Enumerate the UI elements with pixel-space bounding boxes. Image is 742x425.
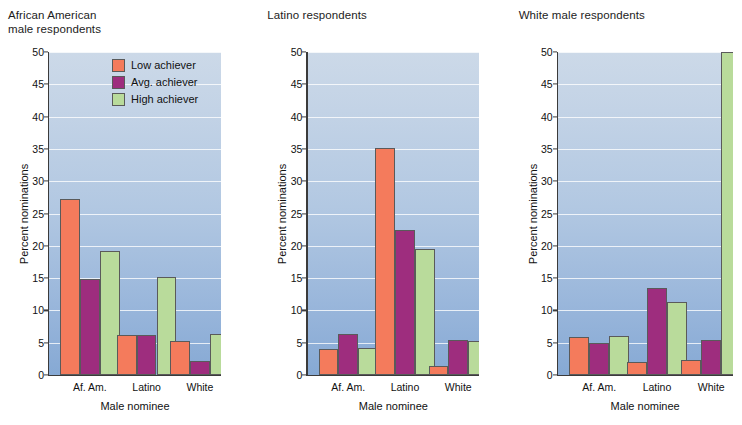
gridline [558,310,733,311]
chart-figure: African American male respondentsPercent… [0,0,742,425]
y-tick-label: 15 [260,273,302,284]
y-tick-label: 20 [2,241,44,252]
x-axis-line [306,375,479,376]
chart-panel-2: Latino respondentsPercent nominations051… [247,0,494,425]
y-tick-label: 5 [511,337,553,348]
legend-label: High achiever [131,93,198,105]
x-tick-label: White [187,381,214,393]
chart-panel-1: African American male respondentsPercent… [0,0,247,425]
y-tick-label: 25 [2,208,44,219]
bar [429,366,449,375]
x-tick-label: White [445,381,472,393]
y-tick-label: 20 [260,241,302,252]
legend-swatch-icon [112,59,125,72]
bar [210,334,221,375]
y-tick-label: 35 [260,144,302,155]
y-tick-label: 30 [2,176,44,187]
bar [415,249,435,375]
bar [647,288,667,375]
y-tick-label: 50 [260,47,302,58]
panel-title: Latino respondents [267,8,367,22]
legend-item: Low achiever [112,57,198,73]
y-tick-label: 30 [511,176,553,187]
y-tick-label: 35 [511,144,553,155]
bar [721,52,732,375]
y-tick-label: 25 [511,208,553,219]
y-tick-label: 0 [511,370,553,381]
bar [627,362,647,375]
gridline [558,278,733,279]
bar [589,343,609,375]
gridline [307,117,479,118]
bar [60,199,80,375]
plot-area [307,52,479,375]
y-axis-ticks: 05101520253035404550 [258,52,302,375]
y-tick-label: 40 [2,111,44,122]
x-tick-label: Af. Am. [582,381,616,393]
bar [448,340,468,375]
x-tick-label: Af. Am. [331,381,365,393]
y-tick-label: 30 [260,176,302,187]
y-axis-line [557,52,558,376]
bar [170,341,190,375]
bar [681,360,701,375]
y-axis-ticks: 05101520253035404550 [509,52,553,375]
y-tick-label: 20 [511,241,553,252]
y-tick-label: 15 [2,273,44,284]
panel-title: African American male respondents [8,8,101,36]
plot-area [558,52,733,375]
gridline [558,52,733,53]
bar [190,361,210,375]
gridline [558,84,733,85]
gridline [49,52,221,53]
gridline [558,181,733,182]
bar [468,341,479,375]
gridline [558,246,733,247]
gridline [49,181,221,182]
y-tick-label: 10 [2,305,44,316]
panel-title: White male respondents [519,8,645,22]
legend-label: Low achiever [131,59,196,71]
y-tick-label: 5 [260,337,302,348]
gridline [49,149,221,150]
legend-label: Avg. achiever [131,76,197,88]
x-axis-title: Male nominee [100,400,169,412]
y-tick-label: 45 [260,79,302,90]
y-tick-label: 10 [260,305,302,316]
bar [569,337,589,375]
gridline [307,84,479,85]
y-tick-label: 35 [2,144,44,155]
legend-swatch-icon [112,93,125,106]
chart-panel-3: White male respondentsPercent nomination… [495,0,742,425]
y-tick-label: 10 [511,305,553,316]
bar [137,335,157,375]
y-axis-line [306,52,307,376]
y-axis-line [48,52,49,376]
legend-item: Avg. achiever [112,74,198,90]
chart-legend: Low achieverAvg. achieverHigh achiever [112,57,198,108]
gridline [558,117,733,118]
legend-swatch-icon [112,76,125,89]
legend-item: High achiever [112,91,198,107]
y-tick-label: 50 [2,47,44,58]
x-tick-label: Af. Am. [73,381,107,393]
y-tick-label: 0 [260,370,302,381]
bar [701,340,721,375]
bar [375,148,395,375]
gridline [558,149,733,150]
y-tick-label: 40 [511,111,553,122]
bar [80,279,100,375]
y-tick-label: 40 [260,111,302,122]
y-tick-label: 25 [260,208,302,219]
gridline [307,52,479,53]
x-tick-label: Latino [391,381,420,393]
x-tick-label: Latino [643,381,672,393]
gridline [49,117,221,118]
y-tick-label: 50 [511,47,553,58]
y-axis-ticks: 05101520253035404550 [0,52,44,375]
y-tick-label: 15 [511,273,553,284]
y-tick-label: 5 [2,337,44,348]
x-tick-label: White [698,381,725,393]
x-axis-line [48,375,221,376]
bar [319,349,339,375]
